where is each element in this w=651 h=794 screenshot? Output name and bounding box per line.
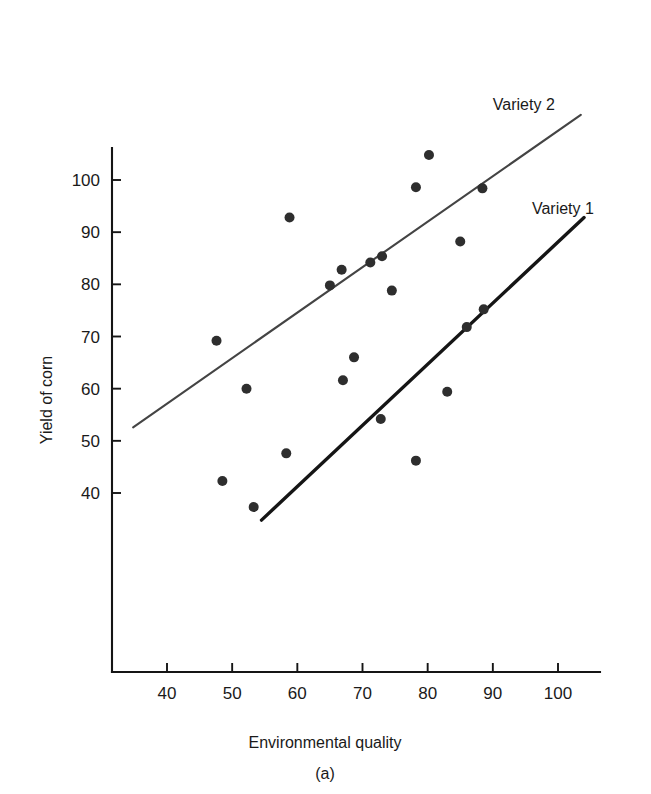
series-label-variety-1: Variety 1 <box>532 200 594 217</box>
trendlines-group <box>133 115 584 520</box>
data-point <box>462 322 472 332</box>
figure-caption: (a) <box>315 765 335 782</box>
x-axis-title: Environmental quality <box>249 734 402 751</box>
x-tick-label-40: 40 <box>158 684 177 703</box>
y-tick-label-80: 80 <box>81 275 100 294</box>
y-axis-title: Yield of corn <box>38 356 55 444</box>
data-point <box>376 414 386 424</box>
data-point <box>479 304 489 314</box>
x-tick-label-50: 50 <box>223 684 242 703</box>
data-point <box>249 502 259 512</box>
x-tick-label-100: 100 <box>544 684 572 703</box>
x-tick-label-90: 90 <box>483 684 502 703</box>
y-axis-ticks: 405060708090100 <box>72 171 121 503</box>
data-point <box>411 182 421 192</box>
data-point <box>325 280 335 290</box>
y-tick-label-60: 60 <box>81 380 100 399</box>
trendline-variety-2 <box>133 115 581 427</box>
data-point <box>242 384 252 394</box>
trendline-variety-1 <box>261 218 584 521</box>
figure-container: 405060708090100 405060708090100 Variety … <box>0 0 651 794</box>
data-point <box>442 387 452 397</box>
data-point <box>477 183 487 193</box>
axes <box>112 148 600 672</box>
data-point <box>281 448 291 458</box>
data-point <box>424 150 434 160</box>
y-tick-label-50: 50 <box>81 432 100 451</box>
x-tick-label-80: 80 <box>418 684 437 703</box>
scatter-chart: 405060708090100 405060708090100 Variety … <box>0 0 651 794</box>
data-points-variety-1 <box>217 304 488 512</box>
data-point <box>285 213 295 223</box>
data-point <box>349 352 359 362</box>
y-tick-label-100: 100 <box>72 171 100 190</box>
data-point <box>337 265 347 275</box>
data-point <box>365 257 375 267</box>
data-point <box>455 237 465 247</box>
data-point <box>377 251 387 261</box>
series-label-variety-2: Variety 2 <box>493 96 555 113</box>
data-point <box>338 375 348 385</box>
x-axis-ticks: 405060708090100 <box>158 663 573 703</box>
data-point <box>411 456 421 466</box>
y-tick-label-40: 40 <box>81 484 100 503</box>
y-tick-label-70: 70 <box>81 328 100 347</box>
x-tick-label-60: 60 <box>288 684 307 703</box>
data-point <box>212 336 222 346</box>
x-tick-label-70: 70 <box>353 684 372 703</box>
data-point <box>387 286 397 296</box>
data-point <box>217 476 227 486</box>
y-tick-label-90: 90 <box>81 223 100 242</box>
